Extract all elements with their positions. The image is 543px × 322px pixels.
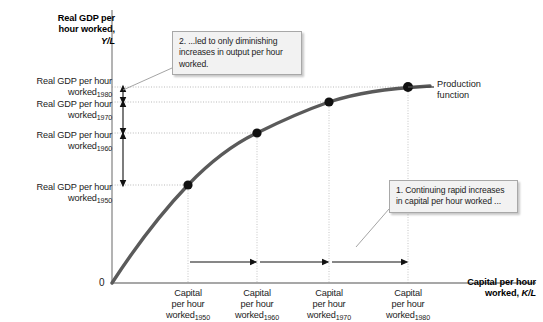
x-tick-1970-line3: worked [307, 310, 336, 320]
x-tick-1950-line1: Capital [174, 288, 202, 298]
callout-annotation-2: 2. ...led to only diminishing increases … [172, 31, 302, 75]
data-point-1970 [324, 97, 333, 106]
x-axis-title-line1: Capital per hour [467, 277, 536, 287]
y-tick-1960-line1: Real GDP per hour [37, 130, 112, 140]
x-tick-1980-line3: worked [386, 310, 415, 320]
callout-annotation-1: 1. Continuing rapid increases in capital… [389, 180, 518, 213]
y-tick-1960-year: 1960 [97, 145, 112, 153]
callout-1-leader-line [356, 209, 389, 247]
production-function-figure: Real GDP per hour worked, Y/L Capital pe… [0, 0, 543, 322]
y-tick-1970-year: 1970 [97, 114, 112, 122]
x-tick-1960-year: 1960 [264, 314, 279, 322]
output-increment-arrows [121, 86, 126, 186]
x-tick-1960-line3: worked [235, 310, 264, 320]
vertical-gridlines [188, 87, 408, 283]
y-tick-label-1980: Real GDP per hour worked1980 [8, 76, 112, 98]
y-tick-1980-line1: Real GDP per hour [37, 76, 112, 86]
x-tick-1960-line1: Capital [243, 288, 271, 298]
x-tick-label-1980: Capital per hour worked1980 [365, 288, 451, 322]
x-axis-title-line2: worked, [485, 288, 519, 298]
y-tick-1960-line2: worked [68, 141, 97, 151]
y-axis-title-line1: Real GDP per [58, 13, 115, 23]
y-tick-1970-line2: worked [68, 110, 97, 120]
y-tick-1980-year: 1980 [97, 91, 112, 99]
y-tick-1950-line1: Real GDP per hour [37, 182, 112, 192]
x-tick-1980-line2: per hour [391, 299, 424, 309]
y-axis-title: Real GDP per hour worked, Y/L [33, 13, 115, 47]
production-function-label-line1: Production [437, 79, 481, 89]
x-tick-label-1970: Capital per hour worked1970 [286, 288, 372, 322]
x-axis-title-symbol: K/L [522, 288, 537, 298]
y-axis-title-line2: hour worked, [59, 24, 115, 34]
x-tick-1960-line2: per hour [240, 299, 273, 309]
y-tick-label-1960: Real GDP per hour worked1960 [8, 130, 112, 152]
production-function-label-line2: function [437, 90, 469, 100]
data-point-1950 [183, 180, 192, 189]
y-axis-title-symbol: Y/L [101, 36, 115, 46]
y-tick-1950-line2: worked [68, 193, 97, 203]
x-tick-1970-year: 1970 [336, 314, 351, 322]
data-point-1960 [252, 128, 261, 137]
y-tick-1970-line1: Real GDP per hour [37, 99, 112, 109]
x-tick-1980-line1: Capital [394, 288, 422, 298]
x-tick-1950-line2: per hour [171, 299, 204, 309]
production-function-label: Production function [437, 79, 507, 101]
x-tick-1980-year: 1980 [415, 314, 430, 322]
capital-increment-arrows [190, 260, 407, 265]
y-tick-label-1970: Real GDP per hour worked1970 [8, 99, 112, 121]
y-tick-1950-year: 1950 [97, 197, 112, 205]
x-tick-1950-line3: worked [166, 310, 195, 320]
x-tick-1970-line2: per hour [312, 299, 345, 309]
x-tick-1970-line1: Capital [315, 288, 343, 298]
y-tick-1980-line2: worked [68, 87, 97, 97]
x-tick-1950-year: 1950 [195, 314, 210, 322]
data-points [183, 82, 413, 190]
y-tick-label-1950: Real GDP per hour worked1950 [8, 182, 112, 204]
origin-label: 0 [99, 277, 105, 288]
